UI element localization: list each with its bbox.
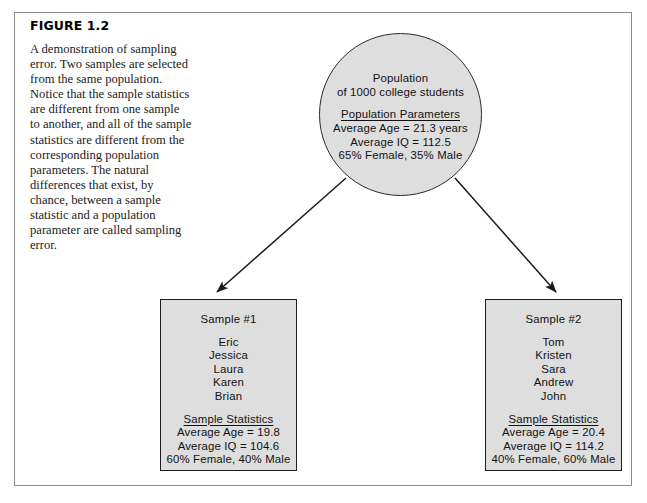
sample-2-name-3: Sara [486, 363, 621, 377]
figure-number-label: FIGURE 1.2 [30, 18, 192, 33]
population-parameters-heading: Population Parameters [325, 108, 477, 122]
sample-2-spacer-bottom [486, 404, 621, 413]
figure-caption-text: A demonstration of sampling error. Two s… [30, 42, 192, 253]
population-spacer [325, 99, 477, 108]
sample-2-name-1: Tom [486, 336, 621, 350]
sample-1-content: Sample #1 Eric Jessica Laura Karen Brian… [161, 313, 296, 467]
sample-2-stat-iq: Average IQ = 114.2 [486, 440, 621, 454]
sample-1-stat-age: Average Age = 19.8 [161, 426, 296, 440]
sample-2-title: Sample #2 [486, 313, 621, 327]
sample-1-stat-iq: Average IQ = 104.6 [161, 440, 296, 454]
sample-1-name-3: Laura [161, 363, 296, 377]
sample-1-name-4: Karen [161, 376, 296, 390]
sample-1-name-2: Jessica [161, 349, 296, 363]
population-circle-content: Population of 1000 college students Popu… [325, 66, 477, 163]
population-parameter-iq: Average IQ = 112.5 [325, 136, 477, 150]
population-line-1: Population [325, 72, 477, 86]
figure-caption-block: FIGURE 1.2 A demonstration of sampling e… [30, 18, 192, 253]
sample-1-spacer-top [161, 327, 296, 336]
population-parameter-gender: 65% Female, 35% Male [325, 149, 477, 163]
sample-2-spacer-top [486, 327, 621, 336]
sample-2-name-2: Kristen [486, 349, 621, 363]
sample-1-spacer-bottom [161, 404, 296, 413]
sample-2-name-4: Andrew [486, 376, 621, 390]
sample-2-stat-gender: 40% Female, 60% Male [486, 453, 621, 467]
sample-2-stat-age: Average Age = 20.4 [486, 426, 621, 440]
sample-box-2: Sample #2 Tom Kristen Sara Andrew John S… [485, 299, 622, 471]
sample-1-statistics-heading: Sample Statistics [161, 413, 296, 427]
sample-2-names: Tom Kristen Sara Andrew John [486, 336, 621, 404]
sample-1-stat-gender: 60% Female, 40% Male [161, 453, 296, 467]
sample-2-content: Sample #2 Tom Kristen Sara Andrew John S… [486, 313, 621, 467]
population-circle: Population of 1000 college students Popu… [319, 33, 482, 196]
sample-2-statistics-heading: Sample Statistics [486, 413, 621, 427]
sample-box-1: Sample #1 Eric Jessica Laura Karen Brian… [160, 299, 297, 471]
sample-1-name-1: Eric [161, 336, 296, 350]
population-parameter-age: Average Age = 21.3 years [325, 122, 477, 136]
sample-1-title: Sample #1 [161, 313, 296, 327]
sample-1-names: Eric Jessica Laura Karen Brian [161, 336, 296, 404]
sample-2-name-5: John [486, 390, 621, 404]
sample-1-name-5: Brian [161, 390, 296, 404]
population-line-2: of 1000 college students [325, 86, 477, 100]
